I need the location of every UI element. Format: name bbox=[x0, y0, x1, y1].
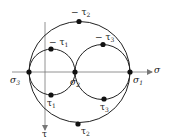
mohr-circle-diagram bbox=[0, 0, 170, 140]
label-tau3: τ3 bbox=[100, 103, 109, 113]
point-sigma2 bbox=[72, 69, 77, 74]
label-sigma2: σ2 bbox=[70, 78, 80, 88]
point-tau2 bbox=[75, 121, 80, 126]
point-tau3 bbox=[101, 96, 106, 101]
label-neg-tau2: − τ2 bbox=[71, 8, 90, 18]
label-tau1: τ1 bbox=[47, 99, 56, 109]
label-tau2: τ2 bbox=[81, 127, 90, 137]
label-neg-tau1: − τ1 bbox=[49, 38, 68, 48]
tau-axis-label: τ bbox=[42, 130, 47, 139]
label-neg-tau3: − τ3 bbox=[95, 33, 114, 43]
point-tau1 bbox=[48, 92, 53, 97]
point-sigma3 bbox=[26, 69, 31, 74]
sigma-axis-label: σ bbox=[154, 66, 160, 75]
label-sigma1: σ1 bbox=[133, 76, 143, 86]
point-neg-tau2 bbox=[76, 19, 81, 24]
label-sigma3: σ3 bbox=[10, 76, 20, 86]
point-sigma1 bbox=[127, 69, 132, 74]
